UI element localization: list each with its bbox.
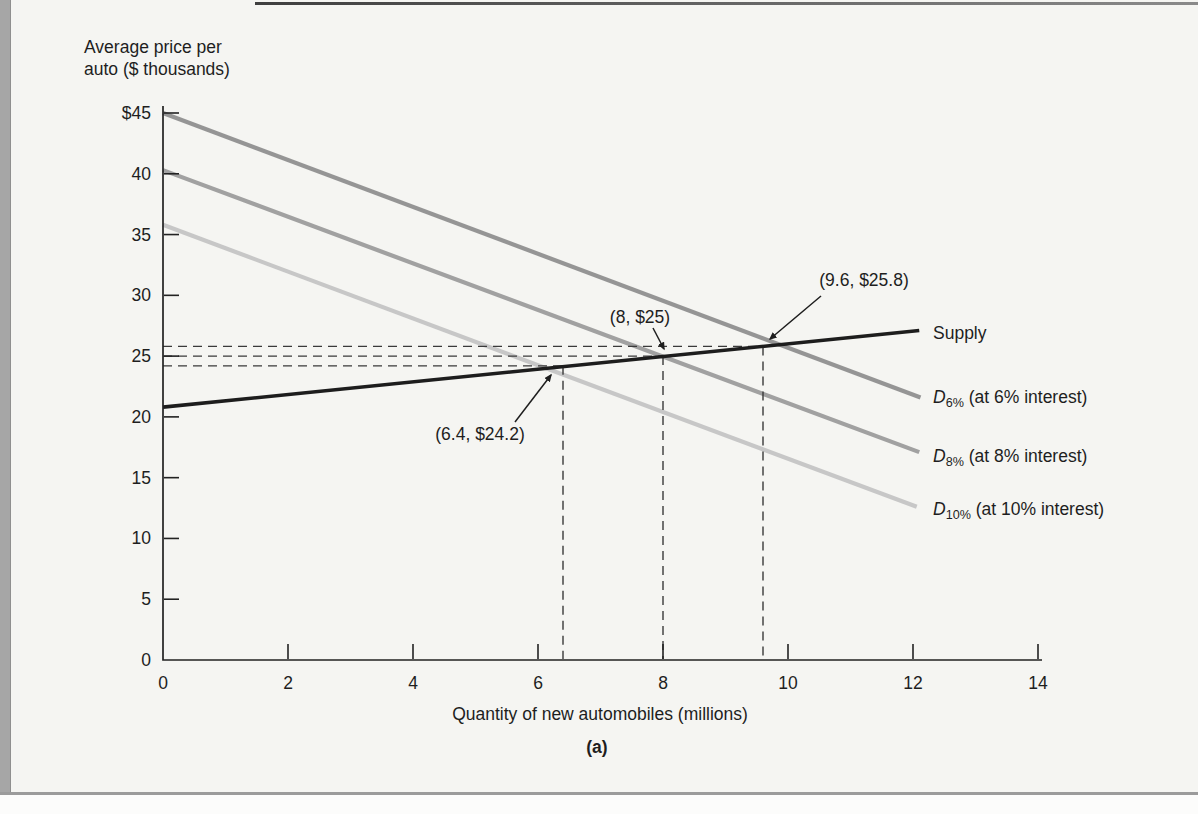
- demand-8pct-symbol: D: [933, 446, 946, 466]
- demand-curve-2: [163, 113, 921, 397]
- demand-6pct-curve-label: D6% (at 6% interest): [933, 386, 1087, 415]
- supply-curve-label: Supply: [933, 322, 987, 344]
- demand-6pct-description: (at 6% interest): [964, 387, 1088, 407]
- y-tick-label: 10: [132, 528, 152, 548]
- x-tick-label: 10: [778, 673, 798, 693]
- annotation-arrow-0: [515, 375, 551, 422]
- y-tick-label: 30: [132, 285, 152, 305]
- y-tick-label: 5: [141, 589, 151, 609]
- x-tick-label: 8: [658, 673, 668, 693]
- x-axis-title: Quantity of new automobiles (millions): [400, 703, 800, 725]
- y-tick-label: 15: [132, 468, 151, 488]
- x-tick-label: 6: [533, 673, 543, 693]
- x-tick-label: 12: [903, 673, 922, 693]
- axes: [163, 106, 1042, 660]
- y-axis-title: Average price per auto ($ thousands): [84, 36, 230, 80]
- y-tick-label: 25: [132, 346, 151, 366]
- supply-curve: [163, 331, 919, 408]
- y-tick-label: $45: [122, 103, 151, 123]
- demand-8pct-subscript: 8%: [946, 455, 964, 469]
- demand-10pct-symbol: D: [933, 499, 946, 519]
- x-tick-label: 0: [158, 673, 168, 693]
- y-axis-title-line1: Average price per: [84, 37, 222, 57]
- y-tick-label: 0: [141, 650, 151, 670]
- demand-10pct-description: (at 10% interest): [971, 499, 1104, 519]
- x-tick-label: 2: [283, 673, 293, 693]
- demand-6pct-subscript: 6%: [946, 396, 964, 410]
- demand-curve-1: [163, 170, 919, 452]
- annotation-equilibrium-6pct: (9.6, $25.8): [819, 269, 909, 291]
- y-tick-label: 20: [132, 407, 152, 427]
- demand-8pct-curve-label: D8% (at 8% interest): [933, 445, 1087, 474]
- demand-10pct-curve-label: D10% (at 10% interest): [933, 498, 1104, 527]
- demand-6pct-symbol: D: [933, 387, 946, 407]
- y-tick-label: 35: [132, 225, 151, 245]
- y-tick-label: 40: [132, 164, 152, 184]
- annotation-equilibrium-10pct: (6.4, $24.2): [435, 423, 525, 445]
- annotation-arrow-2: [770, 296, 821, 339]
- x-tick-label: 14: [1028, 673, 1048, 693]
- panel-letter-label: (a): [547, 736, 647, 758]
- y-axis-title-line2: auto ($ thousands): [84, 59, 230, 79]
- demand-8pct-description: (at 8% interest): [964, 446, 1088, 466]
- x-tick-label: 4: [408, 673, 418, 693]
- annotation-equilibrium-8pct: (8, $25): [610, 306, 670, 328]
- demand-10pct-subscript: 10%: [946, 508, 971, 522]
